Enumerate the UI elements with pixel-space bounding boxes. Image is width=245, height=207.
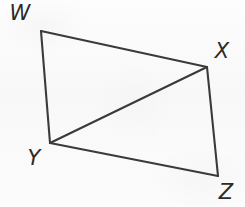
edge-xz — [207, 67, 218, 176]
edge-zy — [50, 143, 218, 176]
vertex-label-w: W — [10, 3, 31, 24]
geometry-canvas — [0, 0, 245, 207]
geometry-figure: WXYZ — [0, 0, 245, 207]
vertex-label-x: X — [215, 41, 229, 62]
edge-yx — [50, 67, 207, 143]
edge-yw — [41, 31, 50, 143]
edge-group — [41, 31, 218, 176]
vertex-label-y: Y — [28, 148, 41, 169]
edge-wx — [41, 31, 207, 67]
vertex-label-z: Z — [219, 182, 233, 203]
